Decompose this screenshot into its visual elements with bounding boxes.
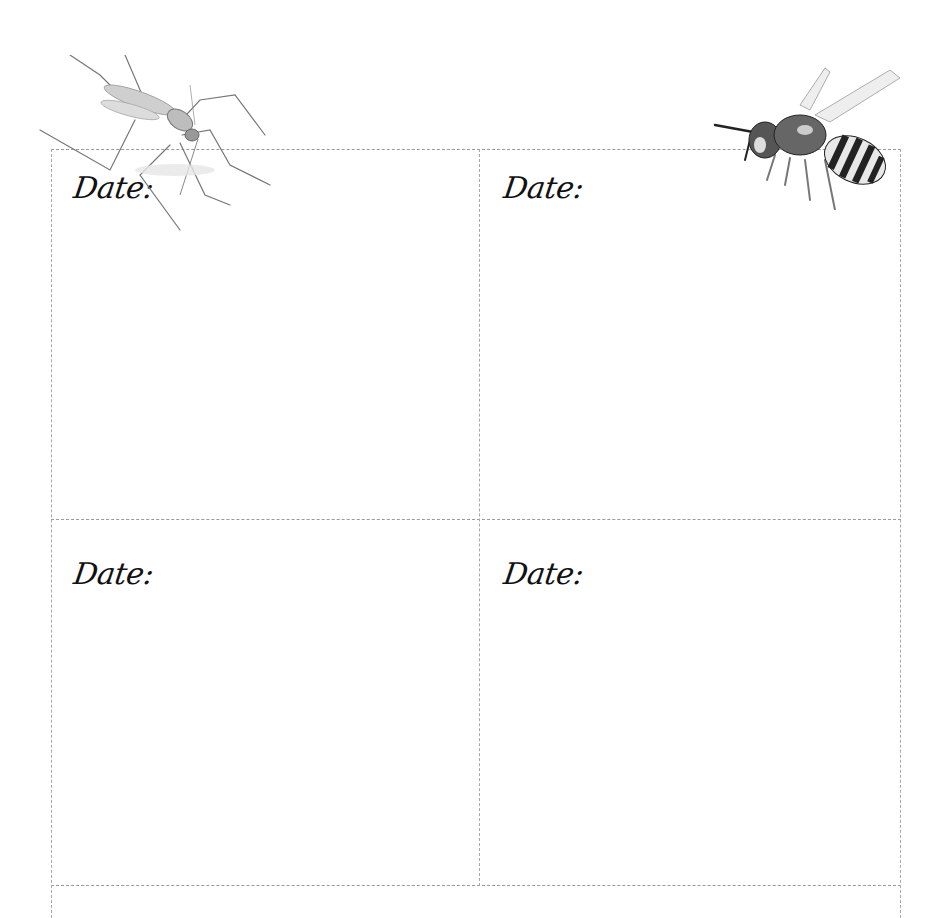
grid-center-divider (479, 149, 480, 886)
grid-right-border (900, 149, 901, 918)
mosquito-illustration (30, 55, 290, 235)
grid-middle-divider (51, 519, 901, 520)
date-label-bottom-right: Date: (502, 556, 586, 591)
date-label-bottom-left: Date: (72, 556, 156, 591)
grid-bottom-divider (51, 885, 901, 886)
date-label-top-right: Date: (502, 170, 586, 205)
wasp-illustration (705, 60, 915, 210)
grid-left-border (51, 149, 52, 918)
